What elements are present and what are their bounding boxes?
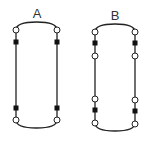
open-circle-node	[132, 29, 138, 35]
open-circle-node	[92, 120, 98, 126]
figure-b-top-arc	[95, 24, 135, 32]
figure-b: B	[92, 8, 138, 131]
open-circle-node	[92, 53, 98, 59]
figure-a-label: A	[33, 6, 42, 21]
open-circle-node	[54, 27, 60, 33]
open-circle-node	[132, 53, 138, 59]
filled-square-node	[133, 109, 138, 114]
filled-square-node	[93, 108, 98, 113]
figure-b-label: B	[111, 8, 120, 23]
open-circle-node	[13, 27, 19, 33]
figure-a-bottom-arc	[16, 120, 57, 128]
filled-square-node	[14, 106, 19, 111]
figure-b-bottom-arc	[95, 123, 135, 131]
filled-square-node	[14, 40, 19, 45]
diagram-canvas: A B	[0, 0, 150, 144]
open-circle-node	[92, 29, 98, 35]
open-circle-node	[54, 117, 60, 123]
figure-a-top-arc	[16, 22, 57, 30]
filled-square-node	[93, 41, 98, 46]
figure-a: A	[13, 6, 60, 128]
filled-square-node	[133, 41, 138, 46]
open-circle-node	[132, 121, 138, 127]
filled-square-node	[55, 40, 60, 45]
open-circle-node	[92, 96, 98, 102]
open-circle-node	[13, 117, 19, 123]
open-circle-node	[132, 97, 138, 103]
filled-square-node	[55, 106, 60, 111]
